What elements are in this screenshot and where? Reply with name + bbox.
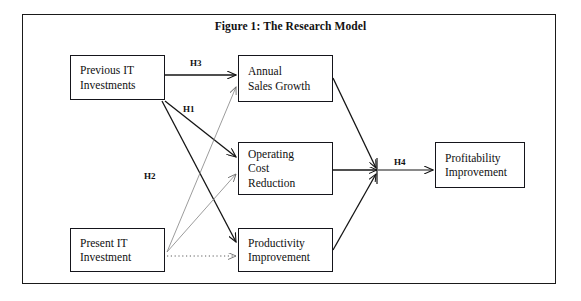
node-present-it-line-1: Present IT [80,236,160,251]
edge-annual-sales-to-junction [333,78,376,168]
edge-present-it-to-operating [167,174,236,252]
edge-previous-it-to-operating [165,101,236,157]
node-productivity-line-1: Productivity [248,236,328,251]
node-previous-it-line-2: Investments [80,78,160,93]
edge-previous-it-to-productivity [162,101,236,242]
node-profitability-line-1: Profitability [445,151,520,166]
node-operating-cost-reduction[interactable]: Operating Cost Reduction [238,142,333,195]
node-annual-sales-line-1: Annual [248,64,328,79]
edge-present-it-to-annual-sales [167,87,236,252]
node-annual-sales-line-2: Sales Growth [248,79,328,94]
figure-page: Figure 1: The Research Model [0,0,581,301]
node-profitability-improvement[interactable]: Profitability Improvement [435,142,525,188]
node-operating-line-2: Cost [248,161,328,176]
node-operating-line-1: Operating [248,147,328,162]
hypothesis-label-h1: H1 [183,104,195,114]
hypothesis-label-h4: H4 [394,157,406,167]
node-annual-sales-growth[interactable]: Annual Sales Growth [238,55,333,102]
node-profitability-line-2: Improvement [445,165,520,180]
node-operating-line-3: Reduction [248,176,328,191]
node-previous-it[interactable]: Previous IT Investments [70,55,165,100]
node-previous-it-line-1: Previous IT [80,63,160,78]
node-productivity-line-2: Improvement [248,250,328,265]
node-present-it-investment[interactable]: Present IT Investment [70,228,165,272]
hypothesis-label-h2: H2 [144,171,156,181]
node-productivity-improvement[interactable]: Productivity Improvement [238,228,333,272]
edge-productivity-to-junction [333,174,376,250]
hypothesis-label-h3: H3 [190,58,202,68]
node-present-it-line-2: Investment [80,250,160,265]
